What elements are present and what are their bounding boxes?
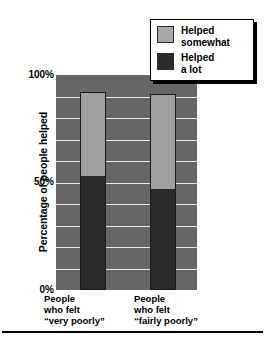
x-label-rest: poorly” <box>161 315 197 326</box>
bar-segment-helped-a-lot[interactable] <box>151 189 175 289</box>
x-label-line1: People <box>44 293 134 304</box>
plot-area <box>56 75 197 290</box>
x-label-line3: “very poorly” <box>44 315 134 326</box>
bar-segment-helped-somewhat[interactable] <box>151 95 175 189</box>
legend: Helped somewhat Helped a lot <box>150 19 254 81</box>
legend-label-line2: a lot <box>181 64 214 76</box>
legend-item-label: Helped a lot <box>181 52 214 75</box>
legend-item-label: Helped somewhat <box>181 25 230 48</box>
x-label-line3: “fairly poorly” <box>134 315 224 326</box>
bar-segment-helped-somewhat[interactable] <box>81 93 105 176</box>
bottom-divider <box>2 331 263 333</box>
x-label-emphasis: fairly <box>139 315 162 326</box>
y-tick-label-100: 100% <box>20 70 54 80</box>
stacked-bar-chart: Percentage of people helped 100% 50% 0% <box>0 0 265 341</box>
legend-label-line1: Helped <box>181 25 230 37</box>
bar-very-poorly[interactable] <box>80 92 106 290</box>
y-tick-label-50: 50% <box>20 177 54 187</box>
legend-label-line2: somewhat <box>181 37 230 49</box>
legend-item-helped-somewhat[interactable]: Helped somewhat <box>157 25 248 48</box>
legend-item-helped-a-lot[interactable]: Helped a lot <box>157 52 248 75</box>
y-axis-ticks: 100% 50% 0% <box>18 0 54 341</box>
x-label-rest: poorly” <box>68 315 104 326</box>
x-label-line2: who felt <box>44 304 134 315</box>
x-label-line1: People <box>134 293 224 304</box>
x-axis-label-very-poorly: People who felt “very poorly” <box>44 293 134 326</box>
x-label-line2: who felt <box>134 304 224 315</box>
bar-segment-helped-a-lot[interactable] <box>81 176 105 289</box>
x-axis-label-fairly-poorly: People who felt “fairly poorly” <box>134 293 224 326</box>
legend-swatch-icon <box>157 26 174 43</box>
bar-fairly-poorly[interactable] <box>150 94 176 290</box>
legend-label-line1: Helped <box>181 52 214 64</box>
legend-swatch-icon <box>157 53 174 70</box>
x-label-emphasis: very <box>49 315 69 326</box>
x-axis-labels: People who felt “very poorly” People who… <box>44 293 224 326</box>
